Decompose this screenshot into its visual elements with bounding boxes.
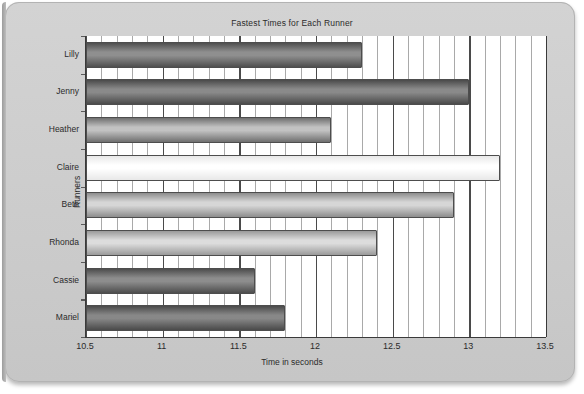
x-axis-label-11-5: 11.5 xyxy=(230,341,247,351)
bar xyxy=(86,79,469,105)
y-axis-tick xyxy=(81,224,85,225)
plot-area: Runners xyxy=(85,36,546,338)
gridline-minor xyxy=(500,36,501,337)
gridline-minor xyxy=(485,36,486,337)
chart-title: Fastest Times for Each Runner xyxy=(0,18,584,28)
bar-chart: Fastest Times for Each Runner Runners Li… xyxy=(0,0,584,394)
x-axis-label-13: 13 xyxy=(463,341,473,351)
y-axis-tick xyxy=(81,74,85,75)
x-axis-label-13-5: 13.5 xyxy=(536,341,554,351)
y-axis-tick xyxy=(81,337,85,338)
bar xyxy=(86,42,362,68)
bar xyxy=(86,117,331,143)
bar xyxy=(86,305,285,331)
bar xyxy=(86,268,255,294)
x-axis-label-11: 11 xyxy=(157,341,166,351)
y-axis-label-jenny: Jenny xyxy=(56,86,79,96)
y-axis-label-claire: Claire xyxy=(57,162,79,172)
bar xyxy=(86,155,500,181)
y-axis-label-mariel: Mariel xyxy=(56,312,79,322)
y-axis-label-beth: Beth xyxy=(62,199,80,209)
y-axis-label-cassie: Cassie xyxy=(53,275,79,285)
y-axis-tick xyxy=(81,262,85,263)
bar xyxy=(86,230,377,256)
plot-inner xyxy=(86,36,546,337)
x-axis-label-12-5: 12.5 xyxy=(383,341,401,351)
plot-right-border xyxy=(546,36,547,337)
x-axis-label-10-5: 10.5 xyxy=(76,341,94,351)
y-axis-tick xyxy=(81,299,85,300)
bar xyxy=(86,192,454,218)
y-axis-label-heather: Heather xyxy=(49,124,79,134)
y-axis-tick xyxy=(81,111,85,112)
x-axis-label-12: 12 xyxy=(310,341,320,351)
gridline-minor xyxy=(531,36,532,337)
y-axis-tick xyxy=(81,36,85,37)
y-axis-tick xyxy=(81,149,85,150)
y-axis-tick xyxy=(81,187,85,188)
gridline-major xyxy=(469,36,470,337)
y-axis-label-rhonda: Rhonda xyxy=(49,237,79,247)
gridline-minor xyxy=(515,36,516,337)
y-axis-label-lilly: Lilly xyxy=(64,49,79,59)
screenshot-root: Fastest Times for Each Runner Runners Li… xyxy=(0,0,584,394)
x-axis-title: Time in seconds xyxy=(0,357,584,367)
